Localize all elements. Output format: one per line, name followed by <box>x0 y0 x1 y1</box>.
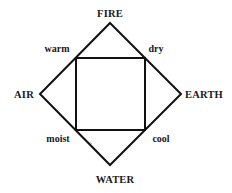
label-moist: moist <box>46 133 70 144</box>
label-earth: EARTH <box>185 89 223 100</box>
label-warm: warm <box>45 43 71 54</box>
label-water: WATER <box>96 174 135 185</box>
label-cool: cool <box>152 133 169 144</box>
label-dry: dry <box>149 43 164 54</box>
qualities-square <box>76 58 145 130</box>
label-air: AIR <box>14 89 34 100</box>
label-fire: FIRE <box>97 8 123 19</box>
elements-qualities-diagram: FIRE AIR EARTH WATER warm dry moist cool <box>0 0 232 193</box>
